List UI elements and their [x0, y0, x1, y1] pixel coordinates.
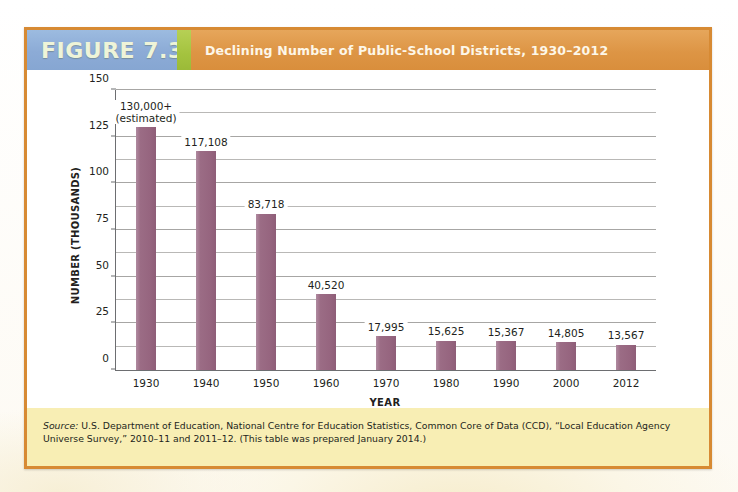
x-axis-tick-label: 1970	[373, 377, 400, 389]
y-axis-tick-label: 150	[89, 72, 109, 84]
bar	[376, 336, 396, 370]
y-axis-tick-label: 50	[96, 259, 109, 271]
bar-value-label: 15,367	[485, 326, 528, 338]
figure-number-block: FIGURE 7.3	[27, 30, 177, 70]
y-axis-tick-mark	[111, 322, 116, 323]
bar	[136, 127, 156, 370]
source-label: Source:	[43, 420, 78, 431]
x-axis-tick-label: 1940	[193, 377, 220, 389]
chart-region: NUMBER (THOUSANDS) 0255075100125150130,0…	[27, 70, 709, 411]
y-axis-tick-label: 100	[89, 165, 109, 177]
bar	[256, 214, 276, 370]
source-body: U.S. Department of Education, National C…	[43, 420, 670, 444]
bar-value-label: 15,625	[425, 325, 468, 337]
bar	[196, 151, 216, 370]
x-axis-title: YEAR	[115, 397, 655, 408]
y-axis-tick-mark	[111, 182, 116, 183]
bar-value-label: 83,718	[245, 198, 288, 210]
header-divider-bar	[177, 30, 191, 70]
gridline-minor	[116, 112, 656, 113]
bar-value-label: 13,567	[605, 329, 648, 341]
figure-number-label: FIGURE 7.3	[41, 38, 184, 63]
y-axis-title: NUMBER (THOUSANDS)	[70, 156, 81, 316]
y-axis-tick-mark	[111, 275, 116, 276]
x-axis-tick-label: 1990	[493, 377, 520, 389]
x-axis-tick-label: 1960	[313, 377, 340, 389]
y-axis-tick-label: 125	[89, 119, 109, 131]
x-axis-tick-label: 1980	[433, 377, 460, 389]
bar-value-label: 40,520	[305, 279, 348, 291]
bar-value-label: 117,108	[181, 136, 230, 148]
bar-value-label: 17,995	[365, 321, 408, 333]
x-axis-tick-label: 1930	[133, 377, 160, 389]
x-axis-tick-label: 1950	[253, 377, 280, 389]
source-note: Source: U.S. Department of Education, Na…	[43, 419, 693, 446]
y-axis-tick-label: 0	[102, 352, 109, 364]
bar	[436, 341, 456, 370]
y-axis-tick-mark	[111, 229, 116, 230]
figure-title: Declining Number of Public-School Distri…	[205, 30, 608, 70]
y-axis-tick-mark	[111, 135, 116, 136]
y-axis-tick-mark	[111, 369, 116, 370]
y-axis-tick-mark	[111, 89, 116, 90]
figure-container: FIGURE 7.3 Declining Number of Public-Sc…	[24, 27, 712, 469]
bar	[316, 294, 336, 370]
plot-area: 0255075100125150130,000+(estimated)19301…	[115, 90, 656, 371]
x-axis-tick-label: 2012	[613, 377, 640, 389]
bar-value-label: 14,805	[545, 327, 588, 339]
y-axis-tick-label: 75	[96, 212, 109, 224]
figure-header-band: FIGURE 7.3 Declining Number of Public-Sc…	[27, 30, 709, 70]
source-band: Source: U.S. Department of Education, Na…	[27, 408, 709, 466]
bar	[496, 341, 516, 370]
gridline-major	[116, 89, 656, 90]
bar-value-label: 130,000+(estimated)	[112, 100, 179, 125]
x-axis-tick-label: 2000	[553, 377, 580, 389]
y-axis-tick-label: 25	[96, 305, 109, 317]
bar	[556, 342, 576, 370]
bar	[616, 345, 636, 370]
